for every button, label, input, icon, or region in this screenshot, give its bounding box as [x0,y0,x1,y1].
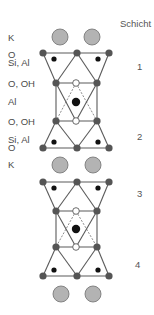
si-al-cation [95,267,100,272]
aluminum-cation [72,98,80,106]
potassium-ion [53,286,69,302]
oxygen-atom [73,49,80,56]
hydroxyl-open-circle [73,118,80,125]
layer-number: 3 [137,188,142,199]
hydroxyl-open-circle [73,244,80,251]
oxygen-atom [105,272,112,279]
oxygen-atom [105,178,112,185]
layer-number: 1 [137,61,142,72]
bond-line [56,182,77,211]
oxygen-hydroxyl-atom [52,117,59,124]
atom-label: O [8,142,15,153]
hydroxyl-open-circle [73,80,80,87]
si-al-cation [51,185,56,190]
atom-label: O, OH [8,78,35,89]
bond-line [56,53,77,83]
oxygen-atom [73,144,80,151]
potassium-ion [52,157,68,173]
atom-label: O, OH [8,116,35,127]
oxygen-atom [39,144,46,151]
potassium-ions [52,29,101,302]
oxygen-hydroxyl-atom [93,243,100,250]
atom-nodes [39,49,112,279]
layer-numbers: Schicht 1234 [120,18,152,270]
potassium-ion [84,29,100,45]
oxygen-atom [39,178,46,185]
bond-line [77,53,97,83]
oxygen-atom [73,272,80,279]
oxygen-hydroxyl-atom [93,207,100,214]
oxygen-hydroxyl-atom [93,117,100,124]
oxygen-hydroxyl-atom [52,207,59,214]
oxygen-hydroxyl-atom [52,243,59,250]
atom-label: Si, Al [8,57,30,68]
atom-label: Al [8,96,16,107]
oxygen-hydroxyl-atom [52,79,59,86]
oxygen-atom [105,144,112,151]
hydroxyl-open-circle [73,208,80,215]
layer-number: 4 [135,259,140,270]
atom-labels: KOSi, AlO, OHAlO, OHSi, AlOK [8,32,35,170]
bond-line [77,247,97,276]
oxygen-hydroxyl-atom [93,79,100,86]
bond-line [56,121,77,148]
oxygen-atom [39,272,46,279]
si-al-cation [51,56,56,61]
oxygen-atom [73,178,80,185]
potassium-ion [52,29,68,45]
si-al-cation [51,267,56,272]
si-al-cation [95,185,100,190]
si-al-cation [51,139,56,144]
atom-label: K [8,159,15,170]
aluminum-cation [72,225,80,233]
bond-line [77,182,97,211]
potassium-ion [85,157,101,173]
si-al-cation [95,56,100,61]
bond-line [77,121,97,148]
schicht-heading: Schicht [120,18,152,29]
mica-layer-structure-diagram: KOSi, AlO, OHAlO, OHSi, AlOK Schicht 123… [0,0,154,315]
oxygen-atom [39,49,46,56]
potassium-ion [85,286,101,302]
si-al-cation [95,139,100,144]
atom-label: K [8,32,15,43]
layer-number: 2 [137,131,142,142]
oxygen-atom [105,49,112,56]
bond-line [56,247,77,276]
